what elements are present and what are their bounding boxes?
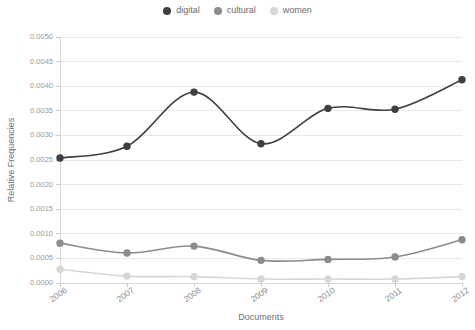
data-point-cultural-2011[interactable] [392,254,398,260]
data-point-women-2008[interactable] [191,274,197,280]
y-tick-label: 0.0010 [30,229,53,238]
data-point-digital-2008[interactable] [191,89,197,95]
plot-area: 0.00000.00050.00100.00150.00200.00250.00… [0,0,475,330]
chart-container: digital cultural women 0.00000.00050.001… [0,0,475,330]
data-point-digital-2007[interactable] [124,143,130,149]
line-chart-svg: 0.00000.00050.00100.00150.00200.00250.00… [0,0,475,330]
y-tick-label: 0.0015 [30,204,53,213]
data-point-cultural-2008[interactable] [191,243,197,249]
x-tick-label: 2012 [450,285,471,304]
y-tick-labels: 0.00000.00050.00100.00150.00200.00250.00… [30,32,53,287]
data-point-digital-2009[interactable] [258,141,264,147]
y-tick-label: 0.0020 [30,180,53,189]
y-tick-label: 0.0035 [30,106,53,115]
data-point-digital-2010[interactable] [325,105,331,111]
data-point-women-2009[interactable] [258,276,264,282]
data-point-women-2006[interactable] [57,266,63,272]
y-tick-label: 0.0000 [30,278,53,287]
data-point-digital-2012[interactable] [459,77,465,83]
x-tick-labels: 2006200720082009201020112012 [48,285,471,304]
data-point-cultural-2006[interactable] [57,240,63,246]
x-tick-label: 2008 [182,285,203,304]
series-cultural [57,237,465,264]
series-women [57,266,465,282]
y-axis-title: Relative Frequencies [6,117,16,202]
data-point-women-2011[interactable] [392,276,398,282]
y-tick-label: 0.0050 [30,32,53,41]
x-axis-title: Documents [238,312,284,322]
x-tick-label: 2010 [316,285,337,304]
y-tick-label: 0.0040 [30,81,53,90]
y-tick-label: 0.0025 [30,155,53,164]
x-tick-label: 2009 [249,285,270,304]
data-point-digital-2011[interactable] [392,106,398,112]
y-tick-label: 0.0045 [30,57,53,66]
x-tick-label: 2011 [383,285,404,304]
data-point-digital-2006[interactable] [57,155,63,161]
data-point-women-2007[interactable] [124,273,130,279]
x-tick-label: 2007 [115,285,136,304]
gridlines-group [60,37,462,283]
data-point-women-2012[interactable] [459,274,465,280]
axis-titles-group: DocumentsRelative Frequencies [6,117,284,322]
axes-group [56,37,462,287]
data-point-cultural-2009[interactable] [258,257,264,263]
data-point-cultural-2012[interactable] [459,237,465,243]
series-group [57,77,465,282]
x-tick-label: 2006 [48,285,69,304]
y-tick-label: 0.0030 [30,130,53,139]
data-point-cultural-2007[interactable] [124,250,130,256]
y-tick-label: 0.0005 [30,253,53,262]
data-point-cultural-2010[interactable] [325,256,331,262]
data-point-women-2010[interactable] [325,276,331,282]
series-digital [57,77,465,161]
